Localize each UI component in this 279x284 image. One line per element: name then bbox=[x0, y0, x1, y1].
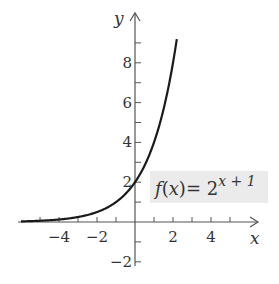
function-base: )= 2 bbox=[179, 178, 218, 199]
y-tick-label: 8 bbox=[122, 54, 132, 72]
function-open-paren: ( bbox=[162, 178, 169, 199]
chart-canvas: −4−224−22468 y x f(x)= 2x + 1 bbox=[0, 0, 279, 284]
x-tick-label: 2 bbox=[168, 228, 178, 246]
y-tick-label: −2 bbox=[110, 253, 132, 271]
x-tick-label: −4 bbox=[48, 228, 70, 246]
tick-labels: −4−224−22468 bbox=[48, 54, 216, 271]
function-variable: x bbox=[169, 178, 179, 199]
x-tick-label: −2 bbox=[86, 228, 108, 246]
x-tick-label: 4 bbox=[206, 228, 216, 246]
y-tick-label: 6 bbox=[122, 94, 132, 112]
function-exponent: x + 1 bbox=[218, 173, 255, 189]
y-tick-label: 4 bbox=[122, 133, 132, 151]
y-axis-label: y bbox=[113, 8, 124, 28]
x-axis-label: x bbox=[250, 228, 260, 248]
